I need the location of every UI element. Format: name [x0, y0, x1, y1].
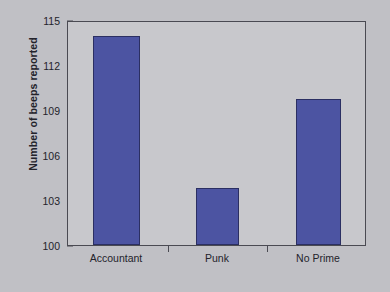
y-tick-label: 109 — [16, 105, 60, 117]
y-tick-label: 112 — [16, 60, 60, 72]
x-label-punk: Punk — [205, 252, 229, 264]
bar-accountant — [93, 36, 140, 245]
x-label-no-prime: No Prime — [296, 252, 340, 264]
bar-no-prime — [296, 99, 341, 245]
bar-chart-figure: Number of beeps reported 115 112 109 106… — [0, 0, 390, 292]
bar-punk — [196, 188, 239, 245]
y-axis-title: Number of beeps reported — [27, 4, 39, 204]
y-tick-label: 115 — [16, 15, 60, 27]
y-tick-label: 106 — [16, 150, 60, 162]
x-tick-mark — [267, 246, 268, 252]
y-tick-label: 103 — [16, 195, 60, 207]
y-tick-label: 100 — [16, 240, 60, 252]
plot-area — [67, 21, 366, 246]
x-tick-mark — [168, 246, 169, 252]
x-label-accountant: Accountant — [90, 252, 143, 264]
